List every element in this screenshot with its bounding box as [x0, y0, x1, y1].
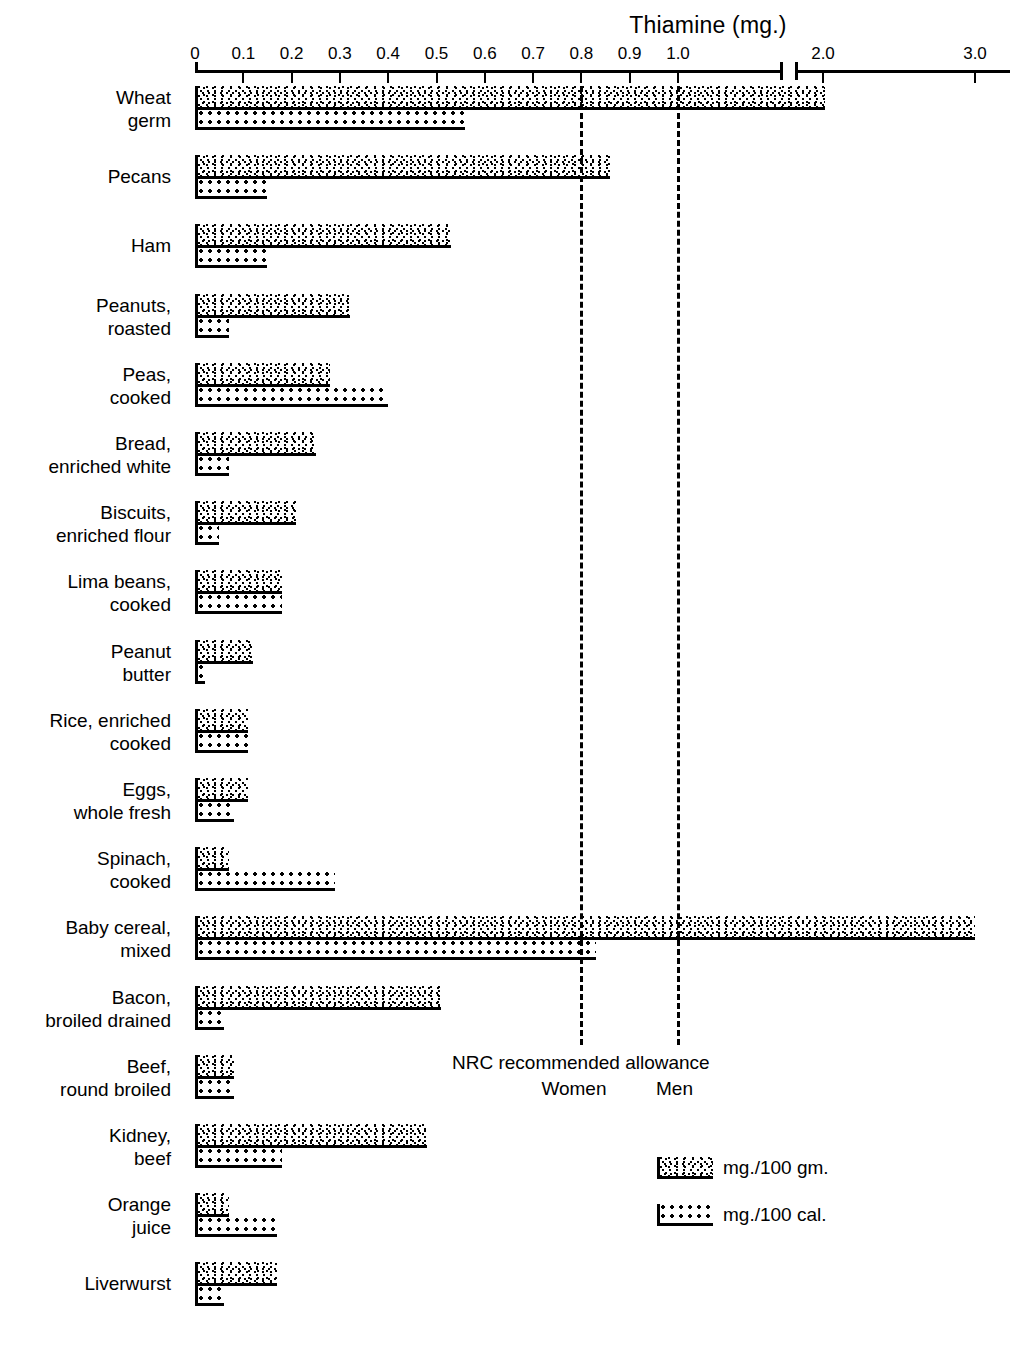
bar-mg-per-100-cal: [195, 1010, 224, 1030]
axis-tick-label: 0.8: [570, 44, 594, 64]
bar-mg-per-100-gm: [195, 294, 350, 318]
category-label: Peanut butter: [0, 640, 171, 686]
legend-swatch-stipple: [657, 1157, 713, 1179]
bar-mg-per-100-cal: [195, 1148, 282, 1168]
axis-tick: [974, 70, 976, 83]
bar-group: [195, 294, 350, 338]
bar-mg-per-100-cal: [195, 525, 219, 545]
bar-mg-per-100-cal: [195, 179, 267, 199]
bar-mg-per-100-gm: [195, 778, 248, 802]
category-label: Pecans: [0, 165, 171, 188]
axis-tick-label: 0: [190, 44, 199, 64]
axis-break-cap-left: [780, 62, 783, 80]
bar-mg-per-100-cal: [195, 1217, 277, 1237]
bar-mg-per-100-gm: [195, 916, 975, 940]
x-axis-line-left: [195, 70, 782, 73]
bar-mg-per-100-cal: [195, 387, 388, 407]
axis-tick-label: 1.0: [666, 44, 690, 64]
axis-tick-label: 3.0: [963, 44, 987, 64]
axis-tick-label: 2.0: [811, 44, 835, 64]
bar-group: [195, 1124, 427, 1168]
chart-title: Thiamine (mg.): [0, 12, 1016, 39]
bar-mg-per-100-gm: [195, 155, 610, 179]
bar-mg-per-100-gm: [195, 432, 316, 456]
x-axis-line-right: [795, 70, 1010, 73]
nrc-women-label: Women: [541, 1078, 606, 1100]
legend-label: mg./100 cal.: [723, 1204, 827, 1226]
bar-mg-per-100-cal: [195, 802, 234, 822]
axis-tick-label: 0.7: [521, 44, 545, 64]
axis-tick-label: 0.9: [618, 44, 642, 64]
nrc-allowance-label: NRC recommended allowance: [452, 1052, 710, 1074]
legend-swatch-dots: [657, 1204, 713, 1226]
nrc-men-label: Men: [656, 1078, 693, 1100]
bar-mg-per-100-cal: [195, 940, 596, 960]
category-label: Lima beans, cooked: [0, 570, 171, 616]
chart-title-text: Thiamine (mg.): [629, 12, 786, 39]
bar-mg-per-100-gm: [195, 501, 296, 525]
bar-mg-per-100-gm: [195, 847, 229, 871]
axis-tick-label: 0.6: [473, 44, 497, 64]
axis-tick-label: 0.5: [425, 44, 449, 64]
bar-group: [195, 640, 253, 684]
category-label: Orange juice: [0, 1193, 171, 1239]
reference-line-women: [580, 86, 583, 1045]
bar-group: [195, 847, 335, 891]
bar-mg-per-100-gm: [195, 640, 253, 664]
bar-group: [195, 1193, 277, 1237]
axis-tick: [629, 70, 631, 83]
bar-group: [195, 1262, 277, 1306]
axis-tick: [436, 70, 438, 83]
bar-group: [195, 986, 441, 1030]
bar-mg-per-100-cal: [195, 1079, 234, 1099]
thiamine-bar-chart: Thiamine (mg.) 00.10.20.30.40.50.60.70.8…: [0, 0, 1016, 1346]
axis-tick-label: 0.3: [328, 44, 352, 64]
bar-mg-per-100-cal: [195, 110, 465, 130]
bar-group: [195, 363, 388, 407]
bar-mg-per-100-gm: [195, 986, 441, 1010]
legend-label: mg./100 gm.: [723, 1157, 829, 1179]
axis-tick-label: 0.2: [280, 44, 304, 64]
bar-group: [195, 1055, 234, 1099]
bar-group: [195, 778, 248, 822]
axis-tick: [291, 70, 293, 83]
category-label: Peanuts, roasted: [0, 294, 171, 340]
axis-tick-label: 0.1: [231, 44, 255, 64]
bar-mg-per-100-gm: [195, 1193, 229, 1217]
axis-tick: [339, 70, 341, 83]
category-label: Wheat germ: [0, 86, 171, 132]
bar-mg-per-100-cal: [195, 871, 335, 891]
bar-mg-per-100-gm: [195, 86, 825, 110]
bar-mg-per-100-cal: [195, 248, 267, 268]
bar-mg-per-100-gm: [195, 1124, 427, 1148]
bar-mg-per-100-gm: [195, 1055, 234, 1079]
axis-tick-label: 0.4: [376, 44, 400, 64]
bar-group: [195, 570, 282, 614]
category-label: Peas, cooked: [0, 363, 171, 409]
axis-tick: [822, 70, 824, 83]
bar-mg-per-100-gm: [195, 363, 330, 387]
bar-group: [195, 86, 825, 130]
category-label: Baby cereal, mixed: [0, 916, 171, 962]
category-label: Biscuits, enriched flour: [0, 501, 171, 547]
axis-tick: [387, 70, 389, 83]
category-label: Eggs, whole fresh: [0, 778, 171, 824]
bar-mg-per-100-cal: [195, 1286, 224, 1306]
category-label: Ham: [0, 234, 171, 257]
bar-mg-per-100-cal: [195, 318, 229, 338]
bar-mg-per-100-gm: [195, 570, 282, 594]
category-label: Rice, enriched cooked: [0, 709, 171, 755]
axis-tick: [242, 70, 244, 83]
bar-group: [195, 709, 248, 753]
category-label: Beef, round broiled: [0, 1055, 171, 1101]
bar-mg-per-100-cal: [195, 456, 229, 476]
bar-group: [195, 501, 296, 545]
bar-mg-per-100-gm: [195, 709, 248, 733]
axis-tick: [677, 70, 679, 83]
axis-tick: [532, 70, 534, 83]
axis-tick: [580, 70, 582, 83]
bar-mg-per-100-cal: [195, 594, 282, 614]
bar-group: [195, 916, 975, 960]
bar-group: [195, 224, 451, 268]
category-label: Spinach, cooked: [0, 847, 171, 893]
